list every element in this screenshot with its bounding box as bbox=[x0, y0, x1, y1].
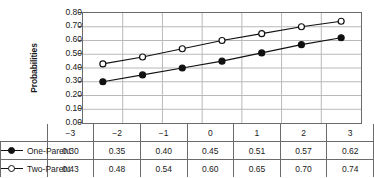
plot-area bbox=[82, 12, 362, 124]
data-point-open bbox=[179, 46, 185, 52]
x-axis-tick-label: 1 bbox=[234, 124, 281, 142]
chart-figure: Probabilities 0.800.700.600.500.400.300.… bbox=[0, 0, 374, 177]
y-axis-title: Probabilities bbox=[26, 6, 42, 130]
data-point-open bbox=[259, 31, 265, 37]
x-axis-tick-label: 2 bbox=[280, 124, 327, 142]
table-cell-value: 0.65 bbox=[234, 160, 281, 178]
table-row: One-Parent 0.300.350.400.450.510.570.62 bbox=[1, 142, 374, 160]
x-axis-tick-label: −2 bbox=[94, 124, 141, 142]
x-axis-tick-label: 3 bbox=[327, 124, 374, 142]
table-cell-value: 0.45 bbox=[187, 142, 234, 160]
table-cell-value: 0.40 bbox=[140, 142, 187, 160]
y-axis-tick-mark bbox=[78, 122, 82, 123]
filled-circle-marker-icon bbox=[1, 146, 23, 155]
x-axis-tick-label: −3 bbox=[47, 124, 94, 142]
x-axis-tick-label: 0 bbox=[187, 124, 234, 142]
x-axis-tick-label: −1 bbox=[140, 124, 187, 142]
data-point-open bbox=[140, 54, 146, 60]
y-axis-tick-mark bbox=[78, 81, 82, 82]
data-point-filled bbox=[100, 79, 106, 85]
y-axis-tick-mark bbox=[78, 67, 82, 68]
table-cell-value: 0.35 bbox=[94, 142, 141, 160]
y-axis-tick-mark bbox=[78, 53, 82, 54]
table-row: Two-Parent 0.430.480.540.600.650.700.74 bbox=[1, 160, 374, 178]
data-point-filled bbox=[219, 58, 225, 64]
data-point-filled bbox=[259, 50, 265, 56]
data-point-filled bbox=[298, 42, 304, 48]
table-cell-value: 0.48 bbox=[94, 160, 141, 178]
data-table: −3−2−10123 One-Parent 0.300.350.400.450.… bbox=[0, 124, 374, 177]
data-point-filled bbox=[179, 65, 185, 71]
data-point-open bbox=[219, 38, 225, 44]
data-point-open bbox=[338, 18, 344, 24]
y-axis-tick-mark bbox=[78, 12, 82, 13]
y-axis-tick-mark bbox=[78, 40, 82, 41]
table-cell-value: 0.60 bbox=[187, 160, 234, 178]
y-axis-tick-mark bbox=[78, 108, 82, 109]
table-cell-value: 0.70 bbox=[280, 160, 327, 178]
data-point-filled bbox=[140, 72, 146, 78]
table-cell-value: 0.57 bbox=[280, 142, 327, 160]
y-axis-tick-mark bbox=[78, 26, 82, 27]
table-cell-value: 0.74 bbox=[327, 160, 374, 178]
legend-item-two-parent[interactable]: Two-Parent bbox=[1, 160, 48, 178]
table-row-xlabels: −3−2−10123 bbox=[1, 124, 374, 142]
data-point-filled bbox=[338, 35, 344, 41]
legend-item-one-parent[interactable]: One-Parent bbox=[1, 142, 48, 160]
table-cell-value: 0.54 bbox=[140, 160, 187, 178]
y-axis-tick-mark bbox=[78, 95, 82, 96]
open-circle-marker-icon bbox=[1, 164, 23, 173]
data-point-open bbox=[100, 61, 106, 67]
table-cell-value: 0.62 bbox=[327, 142, 374, 160]
table-cell-value: 0.51 bbox=[234, 142, 281, 160]
plot-svg bbox=[83, 13, 361, 123]
data-point-open bbox=[298, 24, 304, 30]
table-corner-blank bbox=[1, 124, 48, 142]
